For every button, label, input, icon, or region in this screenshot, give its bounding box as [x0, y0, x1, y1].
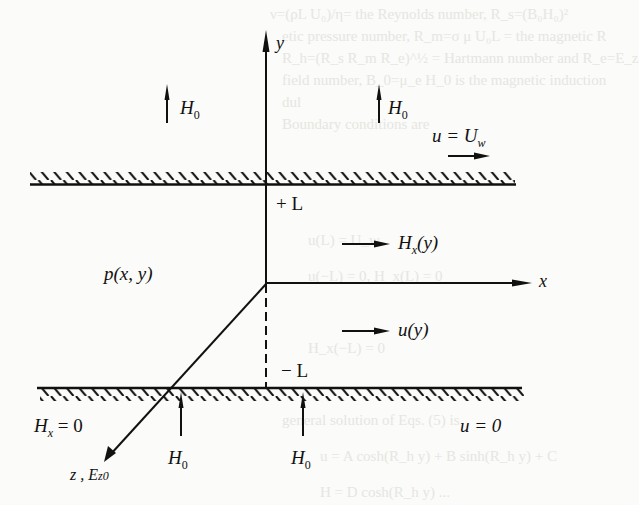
- z-axis-label-sub: z0: [98, 469, 109, 483]
- field-label-upper-right: H0: [388, 98, 408, 121]
- wall-velocity-arrow: [448, 153, 490, 160]
- upper-wall-position-text: + L: [276, 193, 303, 214]
- induced-field-arrow: [342, 241, 390, 248]
- field-arrow-upper-right: [377, 84, 382, 123]
- field-bc-text: H: [34, 415, 48, 436]
- induced-field-label: Hx(y): [398, 233, 438, 256]
- field-arrow-upper-left: [165, 84, 170, 123]
- field-label-text: H: [180, 97, 194, 118]
- x-axis: [266, 280, 532, 287]
- field-label-lower-right: H0: [291, 448, 311, 471]
- upper-wall-velocity-label: u = Uw: [432, 126, 486, 149]
- velocity-profile-label: u(y): [398, 320, 429, 339]
- x-axis-label: x: [539, 272, 547, 290]
- y-axis: [263, 30, 270, 388]
- upper-wall-velocity-text: u = U: [432, 125, 478, 146]
- lower-wall-position-label: − L: [281, 361, 308, 380]
- lower-wall-velocity-label: u = 0: [460, 416, 501, 435]
- field-label-text: H: [291, 447, 305, 468]
- field-label-upper-left: H0: [180, 98, 200, 121]
- induced-field-text: H: [398, 232, 412, 253]
- lower-wall-position-text: − L: [281, 360, 308, 381]
- z-axis-label: z , Ez0: [70, 467, 109, 483]
- field-label-sub: 0: [305, 458, 311, 472]
- upper-wall: [30, 172, 516, 185]
- upper-wall-position-label: + L: [276, 194, 303, 213]
- lower-wall-field-bc-label: Hx = 0: [34, 416, 83, 439]
- z-axis-label-text: z , E: [70, 466, 98, 483]
- pressure-label: p(x, y): [104, 264, 153, 283]
- induced-field-arg: (y): [417, 232, 438, 253]
- field-label-sub: 0: [402, 108, 408, 122]
- lower-wall: [37, 388, 524, 401]
- field-label-text: H: [168, 447, 182, 468]
- field-label-sub: 0: [182, 458, 188, 472]
- velocity-profile-arrow: [342, 328, 390, 335]
- field-bc-value: = 0: [53, 415, 83, 436]
- field-label-sub: 0: [194, 108, 200, 122]
- z-axis: [104, 284, 266, 462]
- field-label-text: H: [388, 97, 402, 118]
- y-axis-label: y: [276, 34, 284, 52]
- field-label-lower-left: H0: [168, 448, 188, 471]
- upper-wall-velocity-sub: w: [478, 136, 486, 150]
